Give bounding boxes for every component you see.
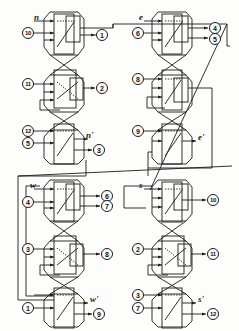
port-s-blk2-out: 11 [207,248,219,260]
block-west-3 [34,288,92,328]
port-n-blk3-in-a: 12 [22,125,34,137]
port-w-blk1-in: 4 [22,196,34,208]
port-n-blk2-in: 11 [22,78,34,90]
port-s-blk2-in: 2 [132,243,144,255]
block-west-1 [34,180,100,222]
port-n-blk3-out: 3 [93,144,105,156]
block-west-2 [34,236,100,277]
label-e-output: e' [198,133,205,142]
port-n-blk1-out: 1 [96,29,108,41]
block-south-2 [144,236,206,277]
diagram-canvas: n n' e e' w w' s s' 10 1 11 2 12 5 3 6 4… [0,0,239,331]
label-w-input: w [30,181,36,190]
block-south-1 [144,180,206,222]
port-w-blk1-out-b: 7 [101,200,113,212]
port-e-blk3-in: 9 [132,125,144,137]
port-w-blk2-in: 3 [22,243,34,255]
port-n-blk1-in: 10 [22,27,34,39]
label-n-input: n [34,13,39,22]
block-north-1 [34,12,97,55]
block-north-2 [34,70,95,112]
label-s-output: s' [198,295,204,304]
label-w-output: w' [90,295,99,304]
port-w-blk2-out: 8 [101,248,113,260]
port-w-blk3-in: 1 [22,302,34,314]
port-e-blk1-in: 6 [132,27,144,39]
routing-wires [18,24,232,300]
port-s-blk3-out: 12 [207,308,219,320]
label-n-output: n' [86,131,94,140]
label-e-input: e [139,13,143,22]
port-e-blk1-out-b: 5 [209,33,221,45]
block-north-3 [34,124,92,164]
block-east-1 [144,12,208,55]
port-e-blk2-in: 8 [132,73,144,85]
circuit-schematic [0,0,239,331]
block-east-2 [144,70,212,112]
port-s-blk3-in-b: 7 [132,302,144,314]
port-s-blk3-in-a: 3 [132,289,144,301]
port-n-blk2-out: 2 [96,82,108,94]
port-n-blk3-in-b: 5 [22,137,34,149]
block-south-3 [144,288,206,328]
label-s-input: s [139,181,143,190]
port-w-blk3-out: 9 [93,308,105,320]
port-s-blk1-out: 10 [207,194,219,206]
